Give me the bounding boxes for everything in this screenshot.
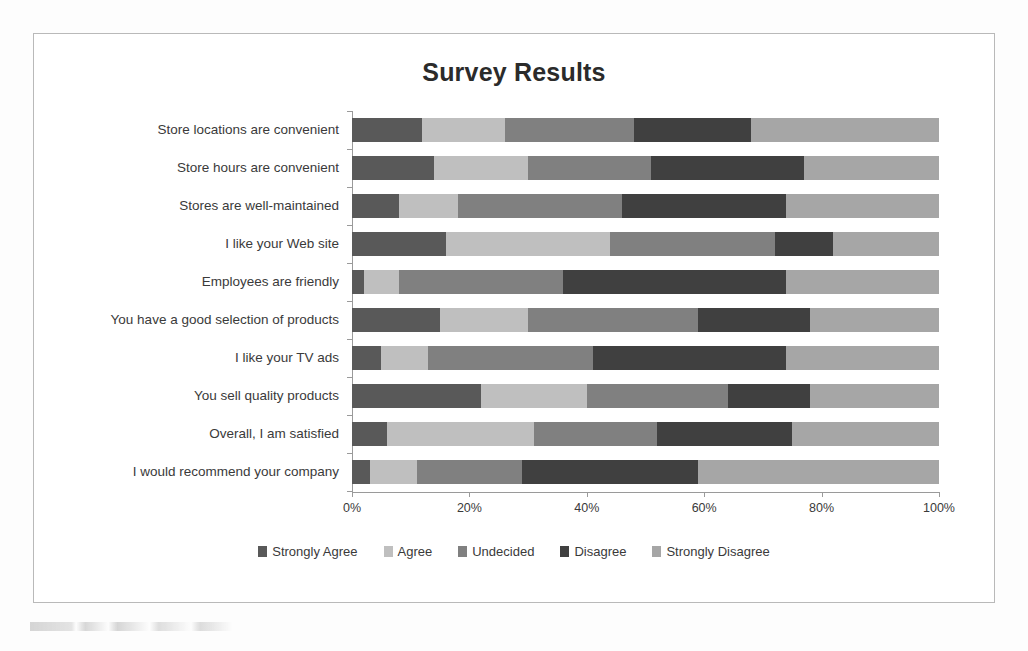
legend-item[interactable]: Undecided (458, 544, 534, 559)
x-axis-line (352, 492, 940, 493)
bar-segment (352, 156, 434, 180)
bar-segment (728, 384, 810, 408)
bar-segment (434, 156, 528, 180)
x-axis-tick-label: 0% (343, 501, 361, 515)
bar-segment (352, 194, 399, 218)
bar-segment (370, 460, 417, 484)
y-axis-tick (347, 187, 352, 188)
y-axis-tick (347, 415, 352, 416)
bar-segment (587, 384, 728, 408)
bar-segment (810, 308, 939, 332)
x-axis-tick (352, 492, 353, 497)
category-label: I like your Web site (225, 225, 339, 263)
legend-label: Strongly Disagree (666, 544, 769, 559)
bar-segment (651, 156, 804, 180)
bar-segment (352, 346, 381, 370)
x-axis-tick-label: 60% (692, 501, 717, 515)
x-axis-tick (822, 492, 823, 497)
bar-segment (417, 460, 523, 484)
legend-label: Strongly Agree (272, 544, 357, 559)
y-axis-tick (347, 339, 352, 340)
bar-row (352, 308, 939, 332)
y-axis-tick (347, 111, 352, 112)
legend-swatch-icon (652, 546, 661, 557)
legend-label: Undecided (472, 544, 534, 559)
x-axis-tick (469, 492, 470, 497)
bar-segment (352, 384, 481, 408)
y-axis-tick (347, 149, 352, 150)
bar-segment (446, 232, 610, 256)
legend-item[interactable]: Strongly Disagree (652, 544, 769, 559)
bar-segment (399, 270, 563, 294)
bar-segment (657, 422, 792, 446)
x-axis-tick-label: 80% (809, 501, 834, 515)
bar-segment (833, 232, 939, 256)
bar-segment (622, 194, 786, 218)
category-label: You have a good selection of products (111, 301, 339, 339)
bar-segment (528, 308, 698, 332)
legend-swatch-icon (258, 546, 267, 557)
bar-segment (810, 384, 939, 408)
bar-segment (634, 118, 751, 142)
x-axis-tick (704, 492, 705, 497)
x-axis-tick-label: 100% (923, 501, 955, 515)
bar-segment (352, 270, 364, 294)
bar-segment (352, 232, 446, 256)
bar-segment (534, 422, 657, 446)
legend-swatch-icon (560, 546, 569, 557)
bar-segment (352, 460, 370, 484)
bar-row (352, 270, 939, 294)
y-axis-tick (347, 301, 352, 302)
bar-segment (364, 270, 399, 294)
scan-artifact (30, 622, 260, 631)
bar-segment (786, 346, 939, 370)
bar-row (352, 194, 939, 218)
legend-item[interactable]: Strongly Agree (258, 544, 357, 559)
category-axis-labels: Store locations are convenientStore hour… (34, 111, 347, 491)
legend-item[interactable]: Disagree (560, 544, 626, 559)
chart-frame: Survey Results Store locations are conve… (33, 33, 995, 603)
bar-segment (804, 156, 939, 180)
legend-item[interactable]: Agree (384, 544, 433, 559)
y-axis-tick (347, 263, 352, 264)
category-label: Employees are friendly (202, 263, 339, 301)
legend-swatch-icon (458, 546, 467, 557)
category-label: I like your TV ads (235, 339, 339, 377)
category-label: Overall, I am satisfied (209, 415, 339, 453)
bar-segment (440, 308, 528, 332)
category-label: I would recommend your company (133, 453, 339, 491)
bar-row (352, 118, 939, 142)
bar-row (352, 460, 939, 484)
bar-segment (522, 460, 698, 484)
bar-segment (458, 194, 622, 218)
bar-segment (399, 194, 458, 218)
legend-label: Agree (398, 544, 433, 559)
bar-segment (698, 308, 810, 332)
bar-segment (352, 118, 422, 142)
bar-segment (593, 346, 787, 370)
bar-segment (422, 118, 504, 142)
bar-segment (352, 308, 440, 332)
bar-segment (352, 422, 387, 446)
bar-row (352, 422, 939, 446)
bar-segment (505, 118, 634, 142)
bar-segment (610, 232, 774, 256)
bar-segment (775, 232, 834, 256)
bar-segment (786, 270, 939, 294)
category-label: Store hours are convenient (177, 149, 339, 187)
bar-segment (563, 270, 786, 294)
category-label: Store locations are convenient (157, 111, 339, 149)
bar-segment (428, 346, 592, 370)
bar-segment (481, 384, 587, 408)
bar-row (352, 384, 939, 408)
bar-segment (387, 422, 534, 446)
bar-segment (381, 346, 428, 370)
x-axis-tick (587, 492, 588, 497)
category-label: You sell quality products (194, 377, 339, 415)
bar-segment (528, 156, 651, 180)
x-axis-tick (939, 492, 940, 497)
bar-segment (698, 460, 939, 484)
legend-label: Disagree (574, 544, 626, 559)
category-label: Stores are well-maintained (179, 187, 339, 225)
plot-area (352, 111, 939, 491)
